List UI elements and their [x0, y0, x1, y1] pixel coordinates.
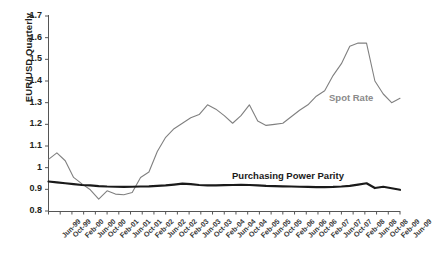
series-line-spot-rate: [49, 43, 401, 199]
y-tick-label: 0.8: [16, 205, 42, 215]
y-tick-label: 1.7: [16, 10, 42, 20]
series-label-purchasing-power-parity: Purchasing Power Parity: [232, 170, 344, 181]
y-tick-label: 1.1: [16, 140, 42, 150]
y-tick-label: 1: [16, 162, 42, 172]
y-tick-label: 0.9: [16, 183, 42, 193]
y-tick-label: 1.3: [16, 97, 42, 107]
series-line-purchasing-power-parity: [49, 182, 401, 190]
chart-series-lines: [49, 43, 401, 199]
y-tick-label: 1.2: [16, 118, 42, 128]
series-label-spot-rate: Spot Rate: [329, 92, 373, 103]
y-tick-label: 1.5: [16, 53, 42, 63]
y-tick-label: 1.4: [16, 75, 42, 85]
y-tick-label: 1.6: [16, 32, 42, 42]
y-axis-title: EUR/USD Quarterly: [23, 0, 34, 138]
